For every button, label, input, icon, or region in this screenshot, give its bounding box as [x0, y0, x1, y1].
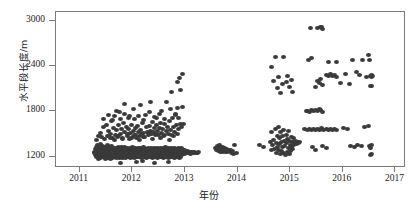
- scatter-point: [141, 118, 146, 122]
- scatter-point: [177, 76, 182, 80]
- scatter-point: [162, 133, 167, 137]
- scatter-point: [324, 146, 329, 150]
- scatter-point: [180, 72, 185, 76]
- scatter-point: [334, 75, 339, 79]
- scatter-point: [178, 88, 183, 92]
- scatter-point: [290, 147, 295, 151]
- scatter-point: [167, 138, 172, 142]
- scatter-point: [366, 124, 371, 128]
- scatter-point: [102, 137, 107, 141]
- scatter-point: [133, 133, 138, 137]
- scatter-point: [269, 65, 274, 69]
- x-tick-mark: [289, 167, 290, 172]
- x-tick-mark: [394, 167, 395, 172]
- scatter-point: [320, 27, 325, 31]
- x-tick-label: 2012: [109, 173, 153, 183]
- scatter-point: [369, 84, 374, 88]
- y-tick-label: 1800: [5, 105, 45, 114]
- x-tick-label: 2014: [215, 173, 259, 183]
- scatter-point: [120, 137, 125, 141]
- scatter-point: [131, 107, 136, 111]
- scatter-point: [136, 114, 141, 118]
- scatter-point: [167, 119, 172, 123]
- scatter-point: [318, 77, 323, 81]
- scatter-point: [313, 148, 318, 152]
- scatter-point: [125, 132, 130, 136]
- scatter-point: [297, 140, 302, 144]
- scatter-point: [101, 117, 106, 121]
- scatter-point: [360, 58, 365, 62]
- x-tick-mark: [79, 167, 80, 172]
- scatter-point: [261, 145, 266, 149]
- scatter-point: [281, 55, 286, 59]
- x-tick-label: 2017: [372, 173, 416, 183]
- scatter-point: [169, 90, 174, 94]
- plot-area: [55, 11, 405, 167]
- scatter-point: [122, 102, 127, 106]
- scatter-point: [176, 116, 181, 120]
- scatter-point: [114, 109, 119, 113]
- scatter-point: [289, 78, 294, 82]
- scatter-point: [106, 113, 111, 117]
- scatter-point: [134, 160, 139, 164]
- scatter-point: [196, 150, 201, 154]
- scatter-point: [359, 144, 364, 148]
- x-tick-label: 2013: [162, 173, 206, 183]
- x-tick-mark: [342, 167, 343, 172]
- scatter-point: [126, 116, 131, 120]
- scatter-point: [357, 73, 362, 77]
- scatter-point: [179, 125, 184, 129]
- scatter-point: [175, 80, 180, 84]
- scatter-point: [129, 136, 134, 140]
- scatter-point: [281, 128, 286, 132]
- scatter-point: [273, 55, 278, 59]
- scatter-point: [287, 85, 292, 89]
- scatter-point: [334, 128, 339, 132]
- scatter-point: [104, 123, 109, 127]
- scatter-point: [275, 86, 280, 90]
- y-tick-label: 1200: [5, 151, 45, 160]
- scatter-chart-figure: 水平段长度/m 1200180024003000 201120122013201…: [0, 0, 417, 208]
- scatter-point: [147, 110, 152, 114]
- x-axis-title: 年份: [0, 187, 417, 202]
- x-tick-mark: [184, 167, 185, 172]
- scatter-point: [147, 124, 152, 128]
- scatter-point: [290, 90, 295, 94]
- scatter-point: [152, 161, 157, 165]
- scatter-point: [313, 85, 318, 89]
- y-tick-label: 3000: [5, 15, 45, 24]
- scatter-point: [150, 137, 155, 141]
- scatter-point: [94, 138, 99, 142]
- scatter-point: [309, 56, 314, 60]
- scatter-point: [286, 129, 291, 133]
- scatter-point: [110, 118, 115, 122]
- x-tick-label: 2011: [57, 173, 101, 183]
- scatter-point: [320, 83, 325, 87]
- scatter-point: [284, 80, 289, 84]
- scatter-point: [175, 132, 180, 136]
- scatter-point: [234, 151, 239, 155]
- scatter-point: [138, 103, 143, 107]
- scatter-point: [320, 110, 325, 114]
- scatter-point: [369, 143, 374, 147]
- x-tick-mark: [131, 167, 132, 172]
- scatter-point: [148, 100, 153, 104]
- scatter-point: [232, 143, 237, 147]
- x-tick-mark: [237, 167, 238, 172]
- scatter-point: [285, 74, 290, 78]
- scatter-point: [367, 58, 372, 62]
- y-tick-label: 2400: [5, 60, 45, 69]
- scatter-points-layer: [56, 12, 404, 166]
- scatter-point: [168, 107, 173, 111]
- scatter-point: [338, 81, 343, 85]
- scatter-point: [175, 106, 180, 110]
- scatter-point: [180, 105, 185, 109]
- x-tick-label: 2016: [320, 173, 364, 183]
- scatter-point: [350, 58, 355, 62]
- scatter-point: [334, 60, 339, 64]
- scatter-point: [345, 127, 350, 131]
- scatter-point: [181, 122, 186, 126]
- scatter-point: [368, 146, 373, 150]
- scatter-point: [140, 159, 145, 163]
- scatter-point: [308, 26, 313, 30]
